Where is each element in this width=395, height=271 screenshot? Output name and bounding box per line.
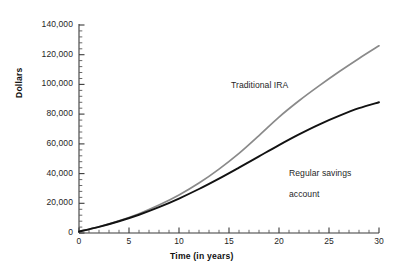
series-annotation-regular-savings-line2: account: [289, 189, 319, 199]
y-tick-label-40000: 40,000: [19, 168, 73, 178]
x-tick-label-20: 20: [272, 236, 286, 246]
y-tick-label-80000: 80,000: [19, 108, 73, 118]
x-tick-label-15: 15: [222, 236, 236, 246]
series-annotation-regular-savings: Regular savings account: [289, 157, 351, 199]
y-tick-label-20000: 20,000: [19, 197, 73, 207]
y-axis-title: Dollars: [14, 67, 24, 98]
y-major-ticks: [79, 25, 85, 233]
x-tick-label-0: 0: [74, 236, 84, 246]
x-axis-title: Time (in years): [170, 251, 234, 261]
chart-figure: 140,000 120,000 100,000 80,000 60,000 40…: [0, 0, 395, 271]
x-tick-label-30: 30: [372, 236, 386, 246]
y-tick-label-140000: 140,000: [19, 19, 73, 29]
y-tick-label-100000: 100,000: [19, 78, 73, 88]
series-annotation-regular-savings-line1: Regular savings: [289, 168, 351, 178]
x-tick-label-25: 25: [322, 236, 336, 246]
series-annotation-traditional-ira: Traditional IRA: [231, 80, 288, 91]
x-tick-label-10: 10: [172, 236, 186, 246]
series-line-traditional-ira: [79, 46, 379, 232]
x-tick-label-5: 5: [124, 236, 134, 246]
y-tick-label-60000: 60,000: [19, 138, 73, 148]
y-tick-label-120000: 120,000: [19, 49, 73, 59]
y-tick-label-0: 0: [19, 227, 73, 237]
x-major-ticks: [79, 228, 379, 234]
